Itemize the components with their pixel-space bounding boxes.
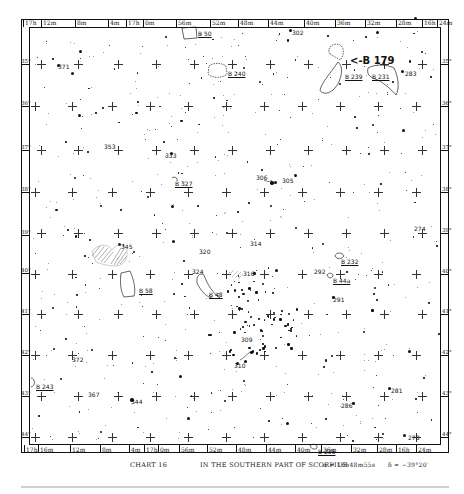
object-number-label: 305 (282, 177, 293, 184)
star-dot (157, 174, 158, 175)
star-dot-cluster (291, 327, 293, 329)
star-dot (328, 404, 329, 405)
star-dot (103, 52, 104, 53)
ra-tick-label-top: 52m (212, 19, 225, 26)
star-dot (46, 124, 47, 125)
star-dot (219, 332, 220, 333)
star-dot (187, 407, 188, 408)
star-dot (206, 298, 207, 299)
grid-cross-icon (380, 229, 389, 238)
ra-tick-mark (295, 445, 296, 453)
grid-cross-icon (108, 433, 117, 442)
dec-tick-mark (441, 106, 449, 107)
star-dot-cluster (279, 318, 282, 321)
ra-tick-mark (351, 445, 352, 453)
grid-cross-icon (260, 433, 269, 442)
ra-tick-label-bottom: 8m (102, 446, 112, 453)
star-dot (354, 69, 356, 71)
ra-tick-mark (416, 445, 417, 453)
grid-cross-icon (152, 310, 161, 319)
grid-cross-icon (336, 433, 345, 442)
grid-cross-icon (146, 433, 155, 442)
grid-cross-icon (146, 351, 155, 360)
grid-cross-icon (304, 310, 313, 319)
star-dot (353, 192, 354, 193)
grid-cross-icon (31, 351, 40, 360)
star-dot (102, 107, 104, 109)
grid-cross-icon (108, 188, 117, 197)
star-dot (371, 309, 373, 311)
grid-cross-icon (184, 188, 193, 197)
star-dot (79, 433, 80, 434)
star-dot (180, 95, 181, 96)
star-dot (226, 100, 228, 102)
grid-cross-icon (68, 433, 77, 442)
ra-tick-label-bottom: 32m (353, 446, 366, 453)
star-dot (183, 260, 185, 262)
ra-tick-mark (268, 19, 269, 27)
grid-cross-icon (418, 392, 427, 401)
star-dot (87, 151, 89, 153)
star-dot (98, 190, 99, 191)
star-dot (137, 101, 139, 103)
star-dot (91, 114, 92, 115)
dec-tick-mark (441, 437, 449, 438)
star-dot (100, 205, 102, 207)
star-dot-cluster (296, 308, 299, 311)
caption-right-ascension: α = 16h48m55s (323, 461, 375, 468)
star-dot-cluster (272, 292, 274, 294)
dec-tick-mark (21, 273, 29, 274)
star-dot (229, 272, 230, 273)
star-dot (65, 141, 67, 143)
grid-cross-icon (146, 102, 155, 111)
star-dot (209, 334, 211, 336)
star-dot (148, 158, 149, 159)
star-dot (38, 415, 40, 417)
ra-tick-label-top: 32m (367, 19, 380, 26)
star-dot (232, 389, 233, 390)
grid-cross-icon (37, 310, 46, 319)
grid-cross-icon (114, 229, 123, 238)
star-dot (214, 320, 215, 321)
star-dot (173, 293, 175, 295)
star-dot (430, 76, 432, 78)
grid-cross-icon (228, 229, 237, 238)
ra-tick-mark (129, 445, 130, 453)
star-dot (409, 60, 411, 62)
object-number-label: 306 (256, 174, 267, 181)
star-dot (189, 223, 190, 224)
grid-cross-icon (74, 310, 83, 319)
object-number-label: 316 (243, 270, 254, 277)
grid-cross-icon (146, 270, 155, 279)
page-divider (21, 486, 449, 488)
star-dot (428, 302, 430, 304)
grid-cross-icon (74, 392, 83, 401)
star-dot (75, 235, 77, 237)
star-dot (346, 271, 348, 273)
star-dot (312, 113, 313, 114)
star-dot (71, 72, 74, 75)
grid-cross-icon (298, 188, 307, 197)
star-dot-cluster (287, 324, 289, 326)
star-dot (161, 184, 162, 185)
grid-cross-icon (380, 392, 389, 401)
grid-cross-icon (260, 270, 269, 279)
star-dot (226, 232, 228, 234)
star-dot (187, 417, 190, 420)
star-dot (377, 37, 378, 38)
star-dot (435, 134, 436, 135)
grid-cross-icon (342, 146, 351, 155)
ra-tick-label-top: 8m (77, 19, 87, 26)
star-dot (271, 94, 272, 95)
star-dot-cluster (239, 309, 241, 311)
grid-cross-icon (152, 146, 161, 155)
star-dot (354, 116, 356, 118)
ra-tick-mark (70, 445, 71, 453)
star-dot (163, 141, 165, 143)
dec-tick-mark (21, 192, 29, 193)
star-dot (374, 427, 376, 429)
star-dot-cluster (290, 347, 293, 350)
star-dot (301, 323, 302, 324)
object-number-label: 314 (250, 240, 261, 247)
star-dot (261, 169, 263, 171)
